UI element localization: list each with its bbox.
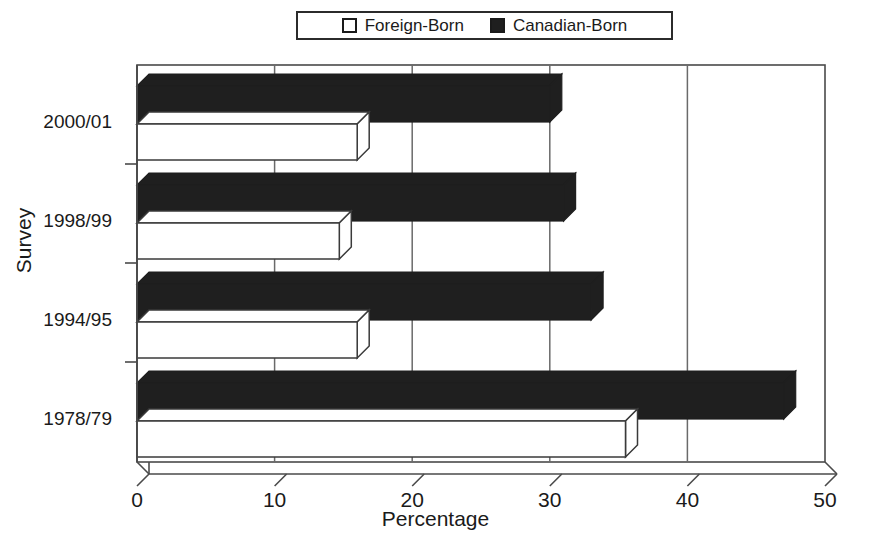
y-tick-marks <box>125 164 137 362</box>
chart-canvas <box>0 0 871 549</box>
x-tick-label-30: 30 <box>520 489 580 510</box>
bar-foreign-born-1998-99 <box>137 211 351 259</box>
x-tick-label-40: 40 <box>657 489 717 510</box>
x-axis-title: Percentage <box>0 508 871 529</box>
chart-figure: Foreign-Born Canadian-Born <box>0 0 871 549</box>
x-tick-label-50: 50 <box>795 489 855 510</box>
y-tick-label-2000-01: 2000/01 <box>0 112 112 131</box>
axis-floor <box>137 462 837 474</box>
y-axis-title: Survey <box>13 176 34 306</box>
bar-foreign-born-1978-79 <box>137 409 638 457</box>
x-tick-label-0: 0 <box>107 489 167 510</box>
y-tick-label-1978-79: 1978/79 <box>0 409 112 428</box>
y-tick-label-1994-95: 1994/95 <box>0 310 112 329</box>
bar-foreign-born-2000-01 <box>137 112 369 160</box>
plot-area: 2000/01 1998/99 1994/95 1978/79 0 10 20 … <box>0 0 871 549</box>
x-tick-label-10: 10 <box>245 489 305 510</box>
bar-foreign-born-1994-95 <box>137 310 369 358</box>
x-tick-marks <box>137 474 837 486</box>
